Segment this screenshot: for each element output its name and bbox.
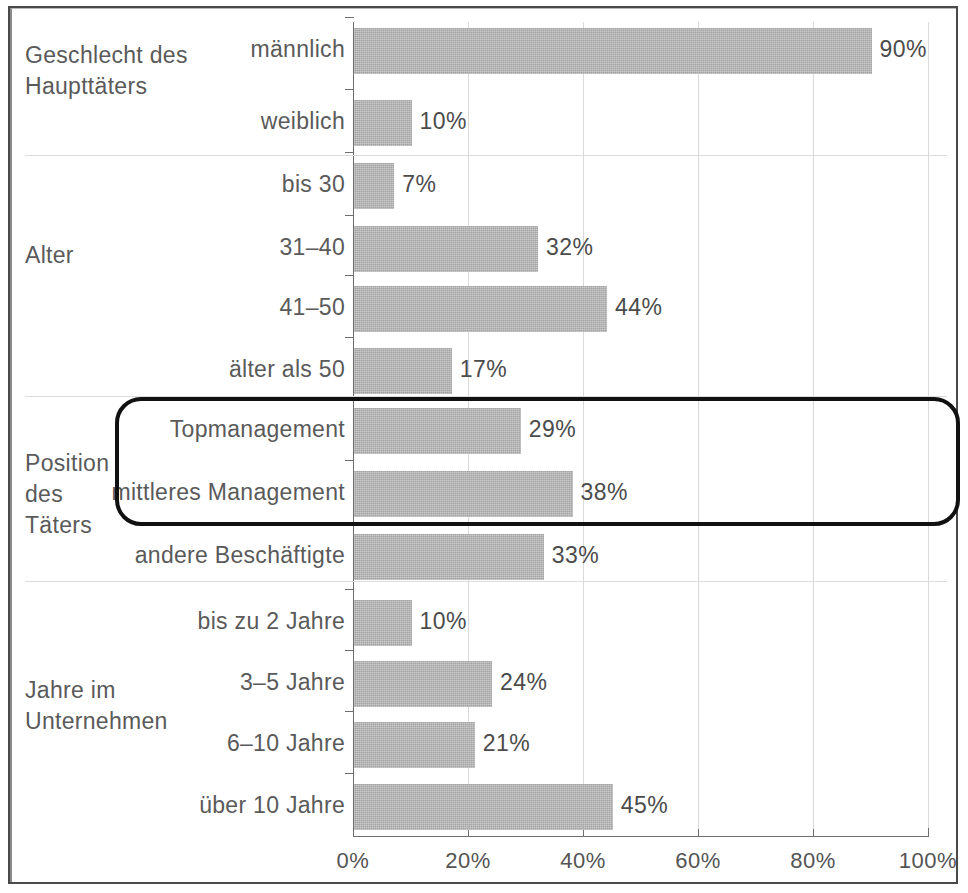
category-label: 3–5 Jahre [240, 669, 345, 696]
x-axis-tick-label: 0% [337, 848, 370, 874]
category-label: männlich [251, 36, 345, 63]
x-axis-tick [468, 829, 469, 837]
category-label: über 10 Jahre [199, 792, 345, 819]
x-axis-tick-label: 20% [445, 848, 491, 874]
bar-value-label: 24% [500, 669, 548, 696]
highlight-annotation-box [115, 397, 960, 526]
category-label: 6–10 Jahre [227, 730, 345, 757]
category-label: bis zu 2 Jahre [198, 608, 345, 635]
x-axis-tick-label: 80% [790, 848, 836, 874]
category-label: weiblich [261, 108, 345, 135]
bar-chart-figure: 0%20%40%60%80%100%Geschlecht des Haupttä… [0, 0, 968, 893]
category-tick [345, 215, 354, 216]
bar [354, 722, 475, 768]
x-axis-tick [583, 829, 584, 837]
category-tick [345, 773, 354, 774]
category-tick [345, 17, 354, 18]
category-tick [345, 337, 354, 338]
bar-value-label: 10% [420, 108, 468, 135]
group-title: Alter [25, 240, 74, 271]
x-axis-line [353, 836, 928, 837]
bar-value-label: 10% [420, 608, 468, 635]
bar [354, 534, 544, 580]
category-label: 31–40 [280, 234, 345, 261]
bar [354, 661, 492, 707]
bar [354, 286, 607, 332]
bar [354, 784, 613, 830]
x-axis-tick-label: 40% [560, 848, 606, 874]
category-label: 41–50 [280, 294, 345, 321]
group-title: Jahre im Unternehmen [25, 675, 168, 737]
bar [354, 163, 394, 209]
category-tick [345, 589, 354, 590]
bar [354, 28, 872, 74]
bar [354, 226, 538, 272]
bar-value-label: 17% [460, 356, 508, 383]
group-separator [25, 155, 947, 156]
category-tick [345, 711, 354, 712]
bar-value-label: 7% [402, 171, 436, 198]
category-label: bis 30 [282, 171, 345, 198]
x-axis-tick-label: 60% [675, 848, 721, 874]
category-tick [345, 275, 354, 276]
bar [354, 100, 412, 146]
bar-value-label: 21% [483, 730, 531, 757]
category-tick [345, 89, 354, 90]
group-separator [25, 581, 947, 582]
bar-value-label: 33% [552, 542, 600, 569]
category-tick [345, 650, 354, 651]
category-tick [345, 152, 354, 153]
bar-value-label: 32% [546, 234, 594, 261]
bar [354, 348, 452, 394]
group-title: Position des Täters [25, 448, 109, 541]
bar-value-label: 90% [880, 36, 928, 63]
category-label: andere Beschäftigte [135, 542, 345, 569]
group-title: Geschlecht des Haupttäters [25, 40, 188, 102]
x-axis-tick-label: 100% [899, 848, 957, 874]
bar-value-label: 44% [615, 294, 663, 321]
category-label: älter als 50 [229, 356, 345, 383]
bar [354, 600, 412, 646]
bar-value-label: 45% [621, 792, 669, 819]
x-axis-tick [698, 829, 699, 837]
x-axis-tick [928, 828, 929, 837]
x-axis-tick [813, 829, 814, 837]
